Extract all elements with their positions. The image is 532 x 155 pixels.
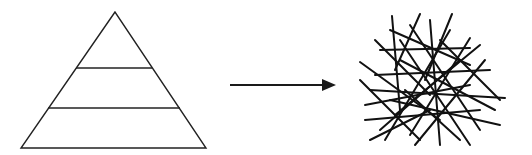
pyramid-shape xyxy=(21,12,206,148)
arrow-right-icon xyxy=(230,79,336,91)
tangled-lines-shape xyxy=(360,14,505,145)
diagram-canvas xyxy=(0,0,532,155)
